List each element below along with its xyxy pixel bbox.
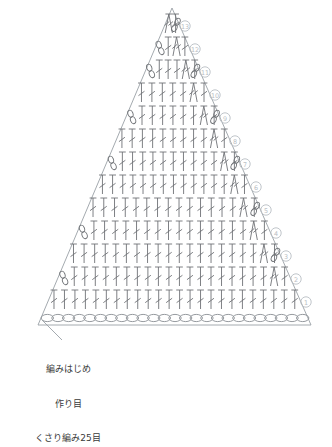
- annotation-line-2: 作り目: [8, 399, 128, 411]
- svg-text:11: 11: [201, 69, 209, 77]
- row-number-label: 12: [190, 44, 200, 54]
- svg-text:10: 10: [211, 92, 219, 100]
- svg-text:8: 8: [233, 138, 237, 146]
- annotation-line-3: くさり編み25目: [8, 433, 128, 445]
- svg-text:5: 5: [264, 207, 268, 215]
- row-number-label: 11: [200, 67, 210, 77]
- svg-text:1: 1: [304, 299, 308, 307]
- svg-text:12: 12: [191, 46, 199, 54]
- row-number-label: 10: [210, 90, 220, 100]
- annotation-line-1: 編みはじめ: [8, 364, 128, 376]
- svg-text:2: 2: [294, 276, 298, 284]
- svg-text:4: 4: [274, 230, 278, 238]
- foundation-annotation: 編みはじめ 作り目 くさり編み25目: [8, 341, 128, 447]
- svg-text:9: 9: [223, 115, 227, 123]
- svg-text:7: 7: [243, 161, 247, 169]
- svg-text:3: 3: [284, 253, 288, 261]
- svg-text:13: 13: [181, 23, 189, 31]
- svg-text:6: 6: [254, 184, 258, 192]
- row-number-label: 13: [180, 21, 190, 31]
